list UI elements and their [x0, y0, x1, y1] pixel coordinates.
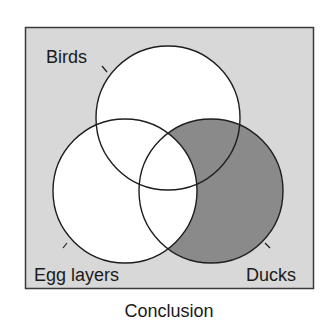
ducks-label: Ducks: [246, 265, 296, 285]
birds-label: Birds: [46, 47, 87, 67]
diagram-caption: Conclusion: [124, 301, 213, 321]
venn-diagram: Birds Egg layers Ducks Conclusion: [0, 0, 330, 335]
egg-layers-label: Egg layers: [34, 265, 119, 285]
shaded-region: [139, 119, 283, 263]
